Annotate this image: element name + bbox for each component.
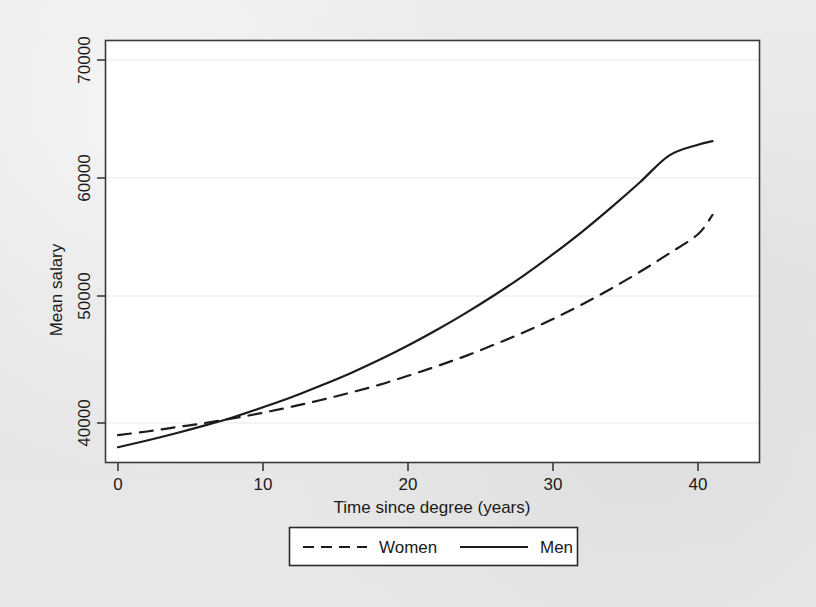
y-tick-label-40000: 40000	[75, 399, 94, 446]
x-tick-label-30: 30	[544, 475, 563, 494]
legend-label-men: Men	[540, 538, 573, 557]
plot-frame	[106, 41, 760, 463]
x-tick-label-20: 20	[399, 475, 418, 494]
x-tick-label-0: 0	[113, 475, 122, 494]
x-axis-title: Time since degree (years)	[334, 498, 531, 517]
chart-svg: 70000 60000 50000 40000 Mean salary 0 10…	[0, 0, 816, 607]
y-tick-label-60000: 60000	[75, 154, 94, 201]
salary-by-time-since-degree-chart: 70000 60000 50000 40000 Mean salary 0 10…	[0, 0, 816, 607]
y-axis-title: Mean salary	[47, 243, 66, 336]
x-axis-tick-labels: 0 10 20 30 40	[113, 475, 707, 494]
y-tick-label-50000: 50000	[75, 272, 94, 319]
legend: Women Men	[290, 528, 578, 566]
y-tick-label-70000: 70000	[75, 36, 94, 83]
y-axis-tick-labels: 70000 60000 50000 40000	[75, 36, 94, 446]
series-line-women	[118, 215, 713, 435]
x-tick-label-40: 40	[689, 475, 708, 494]
legend-label-women: Women	[379, 538, 437, 557]
gridlines	[106, 60, 759, 423]
x-tick-label-10: 10	[254, 475, 273, 494]
series-line-men	[118, 141, 713, 447]
x-axis-ticks	[118, 463, 698, 471]
y-axis-ticks	[97, 60, 105, 423]
